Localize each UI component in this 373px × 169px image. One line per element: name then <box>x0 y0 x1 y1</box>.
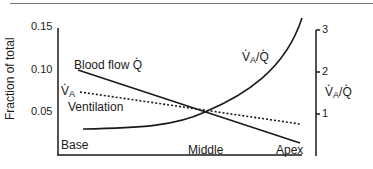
x-label-base: Base <box>61 139 88 151</box>
x-label-middle: Middle <box>188 144 223 156</box>
va-label: VA <box>61 85 75 99</box>
rtick-1: 1 <box>322 108 328 119</box>
ventilation-label: Ventilation <box>68 101 123 113</box>
x-label-apex: Apex <box>276 144 303 156</box>
tick-0-15: 0.15 <box>31 21 52 32</box>
y-axis-label-left: Fraction of total <box>4 37 16 120</box>
va-q-curve-label: VA/Q <box>242 51 269 65</box>
y-axis-label-right: VA/Q <box>325 86 352 100</box>
rtick-3: 3 <box>322 24 328 35</box>
chart-canvas <box>0 0 373 169</box>
tick-0-05: 0.05 <box>31 106 52 117</box>
blood-flow-label: Blood flow Q <box>74 59 142 71</box>
tick-0-10: 0.10 <box>31 64 52 75</box>
